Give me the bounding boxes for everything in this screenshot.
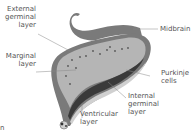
label-purkinje-cells: Purkinje cells <box>161 69 189 85</box>
label-edge-fragment: n <box>0 124 4 132</box>
cerebellum-development-diagram: External germinal layer Marginal layer M… <box>0 0 192 135</box>
label-ventricular-layer: Ventricular layer <box>80 110 118 126</box>
label-internal-germinal-layer: Internal germinal layer <box>128 92 159 116</box>
label-external-germinal-layer: External germinal layer <box>2 5 36 29</box>
label-marginal-layer: Marginal layer <box>2 52 36 68</box>
tip-cell-cluster <box>60 121 68 129</box>
label-midbrain: Midbrain <box>160 25 190 33</box>
